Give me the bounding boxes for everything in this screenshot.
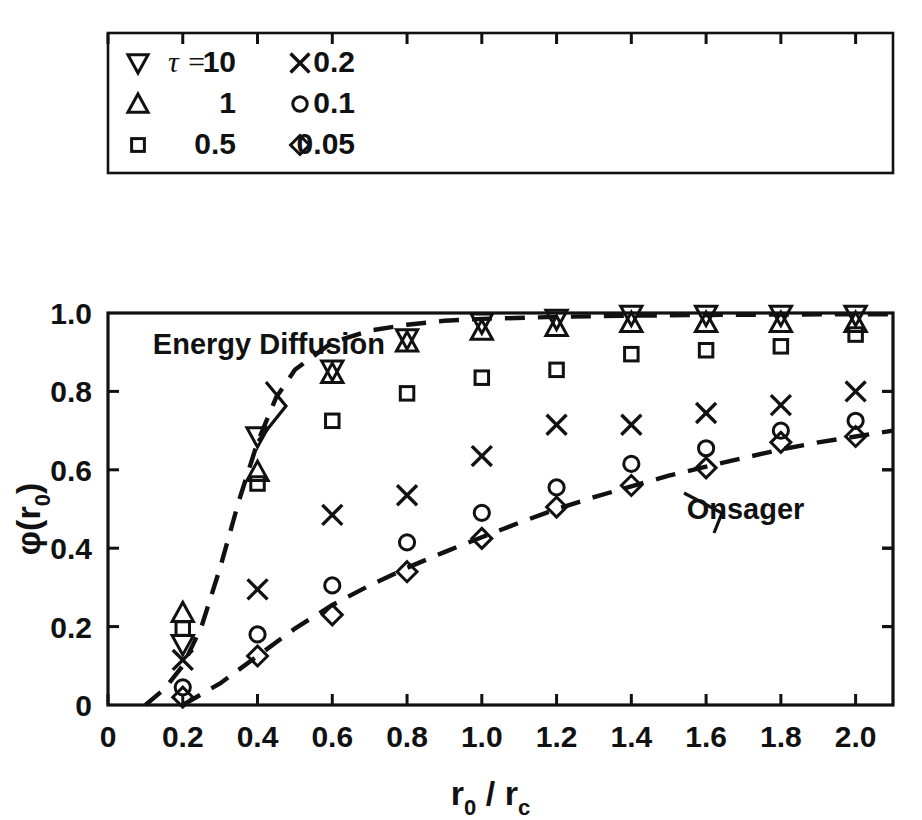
legend-entry-1: 1 — [128, 86, 236, 119]
annotations-layer: Energy DiffusionOnsager — [153, 328, 805, 533]
series-0p5 — [176, 328, 862, 635]
datapoint-square — [699, 343, 712, 356]
xtick-label-3: 0.6 — [311, 720, 353, 753]
x-axis-title: r0 / rc — [451, 774, 530, 820]
datapoint-square — [326, 414, 339, 427]
ytick-label-5: 1.0 — [50, 297, 92, 330]
legend-marker-circle — [293, 97, 307, 111]
xtick-label-0: 0 — [100, 720, 117, 753]
series-0p2 — [173, 381, 866, 669]
datapoint-circle — [399, 535, 414, 550]
datapoint-square — [251, 477, 264, 490]
datapoint-cross — [696, 403, 716, 423]
legend-label-0p1: 0.1 — [313, 86, 355, 119]
xtick-label-5: 1.0 — [461, 720, 503, 753]
datapoint-circle — [474, 505, 489, 520]
ytick-label-4: 0.8 — [50, 375, 92, 408]
datapoint-square — [475, 371, 488, 384]
legend-entry-0p5: 0.5 — [132, 127, 236, 160]
ytick-label-3: 0.6 — [50, 454, 92, 487]
legend-marker-triangle-up — [128, 94, 148, 112]
legend-label-0p2: 0.2 — [313, 45, 355, 78]
legend-marker-triangle-down — [128, 55, 148, 73]
datapoint-square — [400, 387, 413, 400]
annotation-onsager: Onsager — [687, 493, 805, 525]
legend-marker-cross — [291, 54, 310, 73]
datapoint-cross — [322, 505, 342, 525]
datapoint-cross — [248, 579, 268, 599]
datapoint-square — [774, 340, 787, 353]
xtick-label-10: 2.0 — [835, 720, 877, 753]
xtick-label-4: 0.8 — [386, 720, 428, 753]
datapoint-cross — [621, 415, 641, 435]
datapoint-circle — [698, 441, 713, 456]
series-0p05 — [173, 427, 866, 708]
ytick-label-0: 0 — [75, 689, 92, 722]
chart-figure: 00.20.40.60.81.01.21.41.61.82.000.20.40.… — [0, 0, 922, 820]
curve-onsager — [183, 431, 893, 705]
legend-label-0p05: 0.05 — [297, 127, 355, 160]
xtick-label-6: 1.2 — [536, 720, 578, 753]
datapoint-cross — [846, 381, 866, 401]
datapoint-cross — [397, 485, 417, 505]
legend-entry-0p2: 0.2 — [291, 45, 355, 78]
xtick-label-8: 1.6 — [685, 720, 727, 753]
legend-entry-10: τ =10 — [128, 45, 236, 78]
scatter-plot-svg: 00.20.40.60.81.01.21.41.61.82.000.20.40.… — [0, 0, 922, 820]
xtick-label-2: 0.4 — [237, 720, 279, 753]
ytick-label-2: 0.4 — [50, 532, 92, 565]
datapoint-cross — [472, 446, 492, 466]
legend-entry-0p05: 0.05 — [291, 127, 355, 160]
legend-label-1: 1 — [219, 86, 236, 119]
datapoint-circle — [325, 578, 340, 593]
annotation-energy-diffusion: Energy Diffusion — [153, 328, 385, 360]
datapoint-circle — [250, 627, 265, 642]
datapoint-square — [550, 363, 563, 376]
legend-tau-prefix: τ = — [168, 45, 206, 78]
y-axis-title: φ(r0) — [9, 483, 55, 555]
legend-marker-square — [132, 139, 145, 152]
datapoint-square — [625, 347, 638, 360]
datapoint-circle — [624, 456, 639, 471]
legend-label-10: 10 — [203, 45, 236, 78]
datapoint-circle — [549, 480, 564, 495]
ytick-label-1: 0.2 — [50, 611, 92, 644]
datapoint-square — [849, 328, 862, 341]
datapoint-square — [176, 622, 189, 635]
xtick-label-9: 1.8 — [760, 720, 802, 753]
legend: τ =1010.50.20.10.05 — [108, 33, 893, 173]
legend-entry-0p1: 0.1 — [293, 86, 355, 119]
datapoint-cross — [771, 395, 791, 415]
xtick-label-7: 1.4 — [610, 720, 652, 753]
xtick-label-1: 0.2 — [162, 720, 204, 753]
datapoint-cross — [547, 415, 567, 435]
legend-label-0p5: 0.5 — [194, 127, 236, 160]
datapoint-triangle-up — [172, 602, 193, 621]
